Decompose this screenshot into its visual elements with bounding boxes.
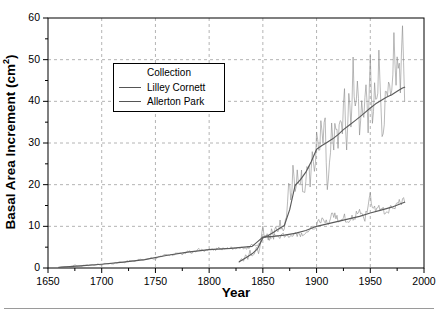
legend-item-lilley-cornett: Lilley Cornett xyxy=(114,80,224,94)
x-tick-label: 1800 xyxy=(189,275,229,287)
x-tick-label: 1650 xyxy=(28,275,68,287)
x-tick-label: 1850 xyxy=(243,275,283,287)
x-tick-label: 1700 xyxy=(82,275,122,287)
y-tick-label: 50 xyxy=(4,53,40,65)
legend: Collection Lilley Cornett Allerton Park xyxy=(113,63,225,112)
y-tick-label: 30 xyxy=(4,136,40,148)
footer-divider xyxy=(4,308,434,309)
y-tick-label: 20 xyxy=(4,178,40,190)
y-tick-label: 10 xyxy=(4,219,40,231)
legend-label: Lilley Cornett xyxy=(147,82,205,93)
legend-item-allerton-park: Allerton Park xyxy=(114,94,224,108)
y-tick-label: 40 xyxy=(4,94,40,106)
x-tick-label: 2000 xyxy=(404,275,438,287)
y-tick-label: 60 xyxy=(4,11,40,23)
y-tick-label: 0 xyxy=(4,261,40,273)
legend-swatch-icon xyxy=(119,87,141,88)
x-tick-label: 1900 xyxy=(297,275,337,287)
legend-label: Allerton Park xyxy=(147,96,204,107)
x-tick-label: 1750 xyxy=(135,275,175,287)
legend-swatch-icon xyxy=(119,101,141,102)
legend-title: Collection xyxy=(114,64,224,80)
plot-canvas xyxy=(0,0,438,313)
x-tick-label: 1950 xyxy=(350,275,390,287)
chart-figure: Basal Area Increment (cm2) Year 16501700… xyxy=(0,0,438,313)
